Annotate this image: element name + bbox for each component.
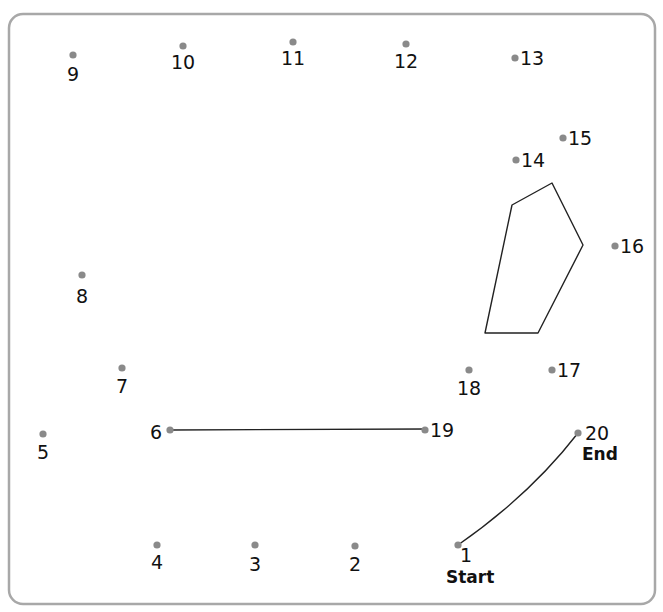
dot-marker[interactable]	[351, 542, 358, 549]
dot-number-label: 15	[568, 127, 592, 149]
dot-number-label: 5	[37, 441, 49, 463]
dot-marker[interactable]	[402, 40, 409, 47]
dot-number-label: 14	[521, 149, 545, 171]
dot-number-label: 19	[430, 419, 454, 441]
puzzle-border	[9, 14, 655, 604]
dot-marker[interactable]	[548, 366, 555, 373]
dot-marker[interactable]	[69, 51, 76, 58]
dot-marker[interactable]	[289, 38, 296, 45]
dot-marker[interactable]	[166, 426, 173, 433]
dot-marker[interactable]	[611, 242, 618, 249]
dot-number-label: 2	[349, 553, 361, 575]
dot-marker[interactable]	[559, 134, 566, 141]
dot-marker[interactable]	[511, 54, 518, 61]
dot-marker[interactable]	[179, 42, 186, 49]
dot-number-label: 10	[171, 51, 195, 73]
dot-marker[interactable]	[78, 271, 85, 278]
dot-to-dot-canvas: 1Start234567891011121314151617181920End	[0, 0, 663, 612]
dot-number-label: 17	[557, 359, 581, 381]
dot-number-label: 6	[150, 421, 162, 443]
dot-number-label: 7	[116, 375, 128, 397]
dot-number-label: 3	[249, 553, 261, 575]
dot-number-label: 12	[394, 50, 418, 72]
start-label: Start	[446, 567, 494, 587]
dot-number-label: 16	[620, 235, 644, 257]
dot-number-label: 20	[585, 422, 609, 444]
dot-number-label: 9	[67, 63, 79, 85]
dot-number-label: 1	[460, 544, 472, 566]
dot-marker[interactable]	[153, 541, 160, 548]
dot-marker[interactable]	[251, 541, 258, 548]
dot-number-label: 11	[281, 47, 305, 69]
dot-marker[interactable]	[574, 429, 581, 436]
dot-marker[interactable]	[465, 366, 472, 373]
dot-marker[interactable]	[512, 156, 519, 163]
dot-number-label: 4	[151, 551, 163, 573]
dot-number-label: 18	[457, 377, 481, 399]
dot-marker[interactable]	[39, 430, 46, 437]
end-label: End	[582, 444, 618, 464]
dot-number-label: 13	[520, 47, 544, 69]
dot-number-label: 8	[76, 285, 88, 307]
dot-marker[interactable]	[118, 364, 125, 371]
dot-marker[interactable]	[421, 426, 428, 433]
